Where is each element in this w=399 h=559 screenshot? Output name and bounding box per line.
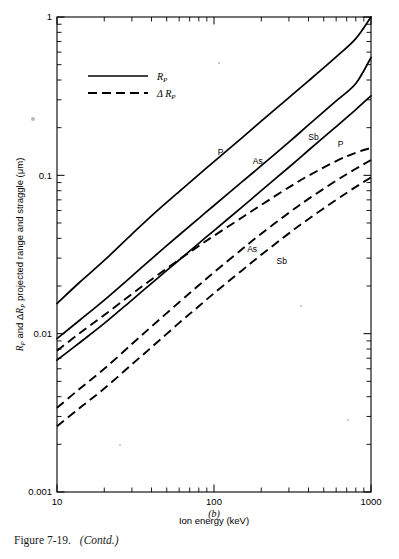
legend-label-1: Δ RP: [156, 88, 176, 102]
figure-caption: Figure 7-19.(Contd.): [14, 534, 119, 546]
x-tick-label: 1000: [360, 496, 381, 507]
curve-label-dRp-As: As: [247, 244, 257, 254]
y-tick-label: 0.01: [34, 328, 53, 339]
curve-Rp-P: [57, 17, 371, 304]
y-axis-title: RP and ΔRP projected range and straggle …: [14, 158, 27, 353]
data-curves: [57, 17, 371, 426]
chart-plot: PAsSbPAsSb 101001000 10.10.010.001 RPΔ R…: [0, 0, 399, 559]
chart-legend: RPΔ RP: [88, 71, 176, 102]
curve-dRp-P: [57, 148, 371, 351]
panel-letter-text: (b): [208, 508, 220, 520]
x-axis-tick-labels: 101001000: [52, 496, 382, 507]
curve-label-Rp-P: P: [218, 147, 224, 157]
caption-number: Figure 7-19.: [14, 534, 71, 546]
plot-border: [57, 17, 371, 492]
y-tick-label: 1: [47, 11, 52, 22]
scan-specks: [31, 62, 349, 446]
figure-container: PAsSbPAsSb 101001000 10.10.010.001 RPΔ R…: [0, 0, 399, 559]
curve-Rp-Sb: [57, 96, 371, 360]
y-axis-ticks: [57, 17, 371, 492]
curve-dRp-As: [57, 160, 371, 408]
curve-label-dRp-Sb: Sb: [277, 256, 288, 266]
x-axis-ticks: [57, 17, 371, 492]
curve-label-Rp-As: As: [253, 156, 263, 166]
x-tick-label: 10: [52, 496, 63, 507]
x-tick-label: 100: [206, 496, 222, 507]
y-tick-label: 0.1: [39, 170, 52, 181]
curve-dRp-Sb: [57, 177, 371, 426]
legend-label-0: RP: [156, 71, 168, 85]
plot-frame: [57, 17, 371, 492]
panel-letter: (b): [208, 508, 220, 520]
curve-label-dRp-P: P: [338, 139, 344, 149]
curve-label-Rp-Sb: Sb: [308, 132, 319, 142]
caption-contd: (Contd.): [80, 534, 119, 546]
axis-titles: Ion energy (keV)RP and ΔRP projected ran…: [14, 158, 249, 526]
curve-annotations: PAsSbPAsSb: [218, 132, 344, 266]
curve-Rp-As: [57, 57, 371, 338]
y-axis-tick-labels: 10.10.010.001: [28, 11, 52, 497]
y-tick-label: 0.001: [28, 486, 52, 497]
